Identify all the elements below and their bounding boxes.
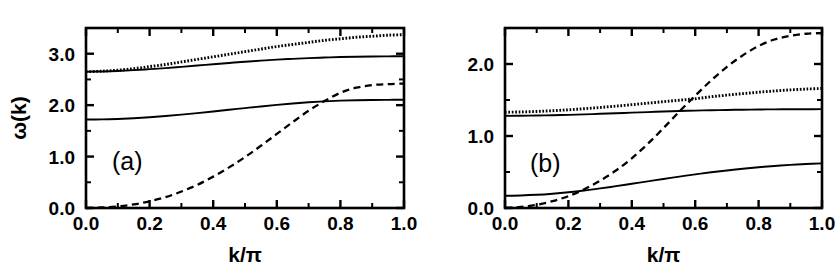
curve-upper-dotted-branch (86, 35, 404, 72)
y-tick-label: 0.0 (468, 198, 494, 219)
plot-frame (505, 28, 822, 208)
y-tick-label: 3.0 (49, 44, 75, 65)
panel-tag-label: (a) (112, 147, 143, 175)
panel-b-plot: 0.00.20.40.60.81.00.01.02.0k/π(b) (420, 0, 840, 275)
chart-panel-a: 0.00.20.40.60.81.00.01.02.03.0k/πω(k)(a) (0, 0, 420, 275)
x-axis-title: k/π (228, 243, 262, 266)
panel-tag-label: (b) (530, 149, 561, 177)
y-tick-label: 2.0 (49, 95, 75, 116)
chart-panel-b: 0.00.20.40.60.81.00.01.02.0k/π(b) (420, 0, 840, 275)
x-tick-label: 0.6 (682, 213, 708, 234)
x-axis-title: k/π (647, 243, 681, 266)
curve-upper-solid-branch (86, 56, 404, 71)
x-tick-label: 0.8 (745, 213, 771, 234)
y-tick-label: 2.0 (468, 54, 494, 75)
x-tick-label: 0.2 (555, 213, 581, 234)
x-tick-label: 0.0 (492, 213, 518, 234)
curve-lower-solid-branch (86, 100, 404, 120)
y-axis-title: ω(k) (7, 96, 30, 139)
panel-a-plot: 0.00.20.40.60.81.00.01.02.03.0k/πω(k)(a) (0, 0, 420, 275)
curve-dashed-dispersion-branch (505, 33, 822, 208)
x-tick-label: 0.4 (619, 213, 646, 234)
x-tick-label: 0.0 (73, 213, 99, 234)
x-tick-label: 0.8 (327, 213, 353, 234)
curve-dashed-dispersion-branch (86, 84, 404, 208)
x-tick-label: 1.0 (809, 213, 835, 234)
x-tick-label: 0.4 (200, 213, 227, 234)
y-tick-label: 1.0 (468, 126, 494, 147)
x-tick-label: 1.0 (391, 213, 417, 234)
y-tick-label: 0.0 (49, 198, 75, 219)
y-tick-label: 1.0 (49, 147, 75, 168)
x-tick-label: 0.2 (136, 213, 162, 234)
figure-root: 0.00.20.40.60.81.00.01.02.03.0k/πω(k)(a)… (0, 0, 840, 275)
x-tick-label: 0.6 (264, 213, 290, 234)
